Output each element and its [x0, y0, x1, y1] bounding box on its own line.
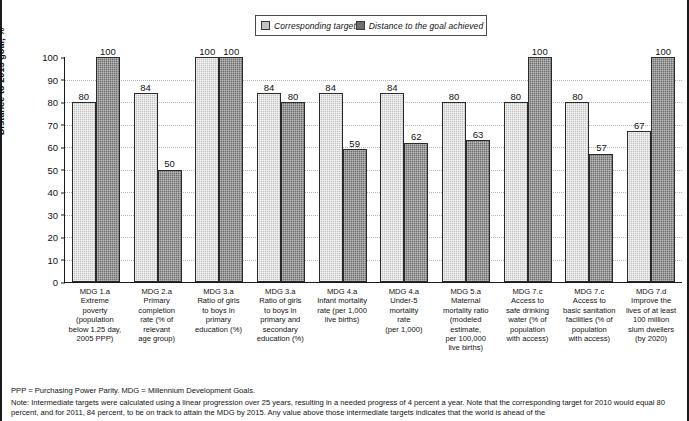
footnote-note: Note: Intermediate targets were calculat… — [11, 398, 683, 418]
category-label-line: rate (% of — [127, 315, 187, 324]
legend-label: Distance to the goal achieved — [369, 21, 483, 31]
category-label-line: MDG 7.c — [498, 287, 558, 296]
bar: 84 — [134, 93, 158, 282]
x-axis-category-label: MDG 7.dImprove thelives of at least100 m… — [620, 287, 682, 353]
y-axis-tick-label: 0 — [53, 277, 65, 288]
category-label-line: Extreme — [65, 296, 125, 305]
bar-value-label: 80 — [288, 92, 299, 102]
category-label-line: rate (per 1,000 — [312, 306, 372, 315]
bar: 50 — [158, 170, 182, 283]
category-label-line: primary — [189, 315, 249, 324]
category-label-line: population — [498, 325, 558, 334]
bar-value-label: 84 — [325, 83, 336, 93]
bar: 63 — [466, 140, 490, 282]
category-label-line: facilities (% of — [559, 315, 619, 324]
bar: 80 — [442, 102, 466, 282]
y-axis-tick-label: 30 — [47, 209, 65, 220]
category-label-line: safe drinking — [498, 306, 558, 315]
category-label-line: 100 million — [621, 315, 681, 324]
category-label-line: (population — [65, 315, 125, 324]
category-label-line: MDG 7.d — [621, 287, 681, 296]
category-label-line: 2005 PPP) — [65, 334, 125, 343]
bar-value-label: 100 — [655, 47, 671, 57]
category-label-line: relevant — [127, 325, 187, 334]
category-label-line: secondary — [250, 325, 310, 334]
category-label-line: population — [559, 325, 619, 334]
y-axis-tick-label: 40 — [47, 187, 65, 198]
chart-figure: Corresponding targetDistance to the goal… — [0, 0, 689, 421]
y-axis-tick-label: 70 — [47, 119, 65, 130]
category-label-line: MDG 4.a — [312, 287, 372, 296]
bar-group: 8462 — [374, 57, 436, 282]
category-label-line: education (%) — [189, 325, 249, 334]
bar-value-label: 80 — [510, 92, 521, 102]
category-label-line: age group) — [127, 334, 187, 343]
bar-group: 100100 — [188, 57, 250, 282]
category-label-line: poverty — [65, 306, 125, 315]
category-label-line: education (%) — [250, 334, 310, 343]
category-label-line: Infant mortality — [312, 296, 372, 305]
x-axis-category-label: MDG 5.aMaternalmortality ratio(modeledes… — [435, 287, 497, 353]
category-label-line: water (% of — [498, 315, 558, 324]
bar-value-label: 59 — [349, 139, 360, 149]
category-label-line: Ratio of girls — [189, 296, 249, 305]
bar-group: 8063 — [435, 57, 497, 282]
category-label-line: MDG 3.a — [189, 287, 249, 296]
legend-swatch-dark — [356, 21, 365, 30]
bar: 67 — [627, 131, 651, 282]
bar: 100 — [195, 57, 219, 282]
category-label-line: MDG 4.a — [374, 287, 434, 296]
category-label-line: Access to — [498, 296, 558, 305]
category-label-line: live births) — [436, 343, 496, 352]
y-axis-tick-label: 20 — [47, 232, 65, 243]
bar: 100 — [219, 57, 243, 282]
bar: 84 — [319, 93, 343, 282]
bar-group: 80100 — [497, 57, 559, 282]
bar-value-label: 80 — [79, 92, 90, 102]
x-axis-category-label: MDG 3.aRatio of girlsto boys inprimary a… — [249, 287, 311, 353]
bar-value-label: 67 — [634, 121, 645, 131]
plot-area: 1009080706050403020100 80100845010010084… — [64, 57, 682, 283]
category-label-line: live births) — [312, 315, 372, 324]
legend-swatch-light — [261, 21, 270, 30]
bar: 100 — [651, 57, 675, 282]
y-axis-tick-label: 90 — [47, 74, 65, 85]
bar-value-label: 84 — [387, 83, 398, 93]
category-label-line: MDG 1.a — [65, 287, 125, 296]
category-label-line: to boys in — [250, 306, 310, 315]
bar-group: 67100 — [620, 57, 682, 282]
bar-value-label: 63 — [473, 130, 484, 140]
bar-value-label: 100 — [532, 47, 548, 57]
bar: 100 — [96, 57, 120, 282]
bar-groups: 8010084501001008480845984628063801008057… — [65, 57, 682, 282]
x-axis-category-label: MDG 4.aInfant mortalityrate (per 1,000li… — [311, 287, 373, 353]
x-axis-category-label: MDG 3.aRatio of girlsto boys inprimaryed… — [188, 287, 250, 353]
bar: 84 — [380, 93, 404, 282]
y-axis-tick-label: 50 — [47, 164, 65, 175]
bar-group: 80100 — [65, 57, 127, 282]
bar-value-label: 100 — [199, 47, 215, 57]
bar-group: 8459 — [312, 57, 374, 282]
bar-value-label: 100 — [223, 47, 239, 57]
category-label-line: rate — [374, 315, 434, 324]
category-label-line: slum dwellers — [621, 325, 681, 334]
legend-entry: Corresponding target — [261, 21, 356, 31]
bar-group: 8450 — [127, 57, 189, 282]
category-label-line: Ratio of girls — [250, 296, 310, 305]
bar: 80 — [72, 102, 96, 282]
y-axis-tick-label: 100 — [42, 52, 65, 63]
category-label-line: Primary — [127, 296, 187, 305]
category-label-line: per 100,000 — [436, 334, 496, 343]
bar-value-label: 57 — [596, 143, 607, 153]
bar-value-label: 84 — [264, 83, 275, 93]
bar: 80 — [565, 102, 589, 282]
category-label-line: below 1.25 day, — [65, 325, 125, 334]
category-label-line: lives of at least — [621, 306, 681, 315]
footnote-abbreviations: PPP = Purchasing Power Parity. MDG = Mil… — [11, 386, 683, 396]
x-axis-category-labels: MDG 1.aExtremepoverty(populationbelow 1.… — [64, 287, 682, 353]
category-label-line: (modeled — [436, 315, 496, 324]
category-label-line: MDG 3.a — [250, 287, 310, 296]
category-label-line: MDG 5.a — [436, 287, 496, 296]
category-label-line: with access) — [559, 334, 619, 343]
y-axis-tick-label: 60 — [47, 142, 65, 153]
